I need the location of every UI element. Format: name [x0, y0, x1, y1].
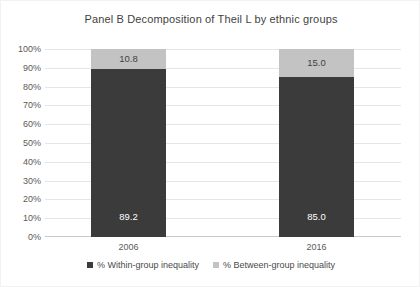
bar-segment-between-group-2016[interactable]: 15.0 [279, 49, 354, 77]
legend-item-within-group[interactable]: % Within-group inequality [87, 260, 199, 270]
y-axis-tick-label: 100% [1, 44, 41, 54]
legend-item-label: % Within-group inequality [97, 260, 199, 270]
y-axis-tick-label: 10% [1, 213, 41, 223]
x-axis-category-label-2016: 2016 [279, 242, 354, 252]
bar-column-2006[interactable]: 89.2 10.8 [91, 49, 166, 237]
y-axis-tick-label: 80% [1, 82, 41, 92]
bar-value-label: 85.0 [279, 212, 354, 222]
bar-value-label: 15.0 [307, 58, 326, 68]
y-axis-tick-label: 30% [1, 176, 41, 186]
y-axis-tick-label: 20% [1, 194, 41, 204]
y-axis: 100% 90% 80% 70% 60% 50% 40% 30% 20% 10%… [1, 49, 41, 237]
legend-item-label: % Between-group inequality [223, 260, 335, 270]
chart-container: Panel B Decomposition of Theil L by ethn… [0, 0, 420, 287]
chart-title: Panel B Decomposition of Theil L by ethn… [1, 13, 420, 25]
legend-swatch-icon [87, 262, 93, 268]
y-axis-tick-label: 70% [1, 100, 41, 110]
bar-value-label: 10.8 [119, 54, 138, 64]
y-axis-tick-label: 40% [1, 157, 41, 167]
y-axis-tick-label: 50% [1, 138, 41, 148]
bar-value-label: 89.2 [91, 212, 166, 222]
legend-swatch-icon [213, 262, 219, 268]
bar-segment-between-group-2006[interactable]: 10.8 [91, 49, 166, 69]
bar-column-2016[interactable]: 85.0 15.0 [279, 49, 354, 237]
chart-legend: % Within-group inequality % Between-grou… [1, 260, 420, 270]
y-axis-tick-label: 90% [1, 63, 41, 73]
x-axis-category-label-2006: 2006 [91, 242, 166, 252]
legend-item-between-group[interactable]: % Between-group inequality [213, 260, 335, 270]
plot-area: 89.2 10.8 85.0 15.0 [45, 49, 401, 237]
y-axis-tick-label: 60% [1, 119, 41, 129]
y-axis-tick-label: 0% [1, 232, 41, 242]
bar-segment-within-group-2016[interactable]: 85.0 [279, 77, 354, 237]
bar-segment-within-group-2006[interactable]: 89.2 [91, 69, 166, 237]
